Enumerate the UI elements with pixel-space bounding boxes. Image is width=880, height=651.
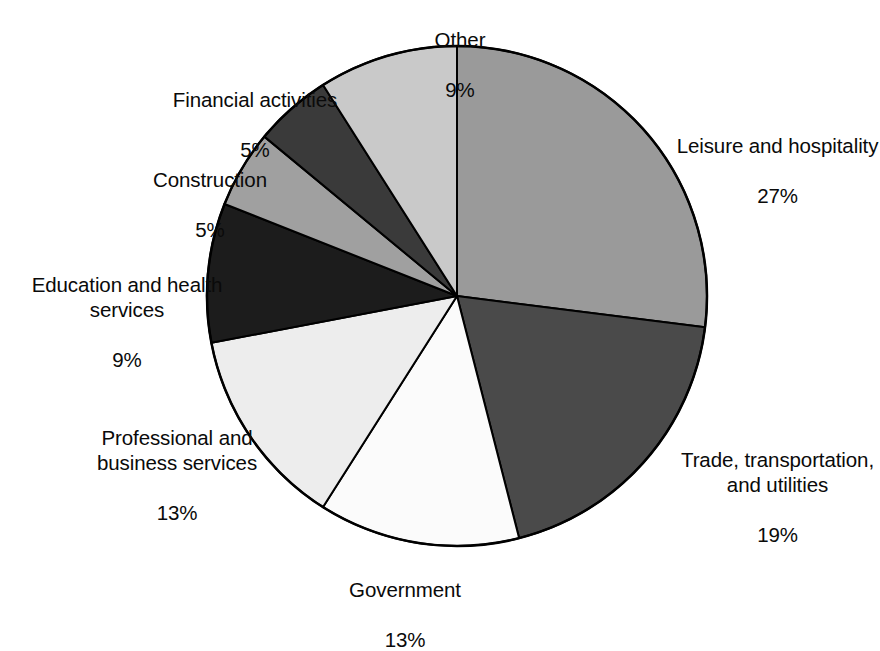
pie-label-leisure-value: 27% [655,183,880,208]
pie-label-education-value: 9% [0,347,262,372]
pie-label-professional-value: 13% [52,500,302,525]
pie-label-construction-value: 5% [85,217,335,242]
pie-label-other-value: 9% [350,77,570,102]
pie-label-professional-name: Professional and business services [52,425,302,475]
pie-label-trade-value: 19% [655,522,880,547]
pie-label-government-value: 13% [280,627,530,651]
pie-label-trade-name: Trade, transportation, and utilities [655,447,880,497]
pie-label-leisure-name: Leisure and hospitality [655,133,880,158]
pie-label-government-name: Government [280,577,530,602]
pie-label-leisure-and-hospitality: Leisure and hospitality 27% [655,108,880,233]
pie-label-trade-transportation-utilities: Trade, transportation, and utilities 19% [655,422,880,572]
pie-label-other: Other 9% [350,2,570,127]
pie-label-other-name: Other [350,27,570,52]
pie-label-government: Government 13% [280,552,530,651]
pie-label-education-name: Education and health services [0,272,262,322]
pie-label-professional-and-business-services: Professional and business services 13% [52,400,302,550]
pie-label-financial-value: 5% [105,137,405,162]
pie-label-education-and-health-services: Education and health services 9% [0,247,262,397]
